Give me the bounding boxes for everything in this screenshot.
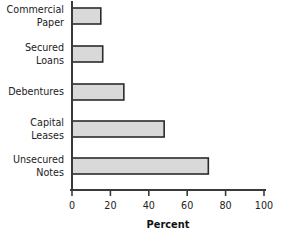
x-tick-label: 100 xyxy=(255,200,273,211)
category-label: Notes xyxy=(36,167,64,178)
x-tick-label: 60 xyxy=(181,200,193,211)
category-labels: CommercialPaperSecuredLoansDebenturesCap… xyxy=(7,4,64,178)
x-tick-label: 40 xyxy=(143,200,155,211)
category-label: Secured xyxy=(25,42,64,53)
category-label: Loans xyxy=(36,55,64,66)
bar-commercial-paper xyxy=(72,8,101,24)
bar-debentures xyxy=(72,84,124,100)
x-tick-label: 80 xyxy=(219,200,231,211)
bar-secured-loans xyxy=(72,46,103,62)
x-axis-title: Percent xyxy=(147,219,190,230)
category-label: Paper xyxy=(37,17,64,28)
category-label: Commercial xyxy=(7,4,64,15)
bar-chart: CommercialPaperSecuredLoansDebenturesCap… xyxy=(0,0,281,236)
x-axis-title-group: Percent xyxy=(147,219,190,230)
x-tick-label: 0 xyxy=(69,200,75,211)
category-label: Debentures xyxy=(8,86,64,97)
bar-unsecured-notes xyxy=(72,158,208,174)
x-tick-label: 20 xyxy=(104,200,116,211)
category-label: Unsecured xyxy=(13,154,64,165)
x-axis-ticks: 020406080100 xyxy=(69,190,273,211)
bars-group xyxy=(72,8,208,174)
category-label: Capital xyxy=(30,117,64,128)
chart-canvas: CommercialPaperSecuredLoansDebenturesCap… xyxy=(0,0,281,236)
bar-capital-leases xyxy=(72,121,164,137)
category-label: Leases xyxy=(31,130,64,141)
